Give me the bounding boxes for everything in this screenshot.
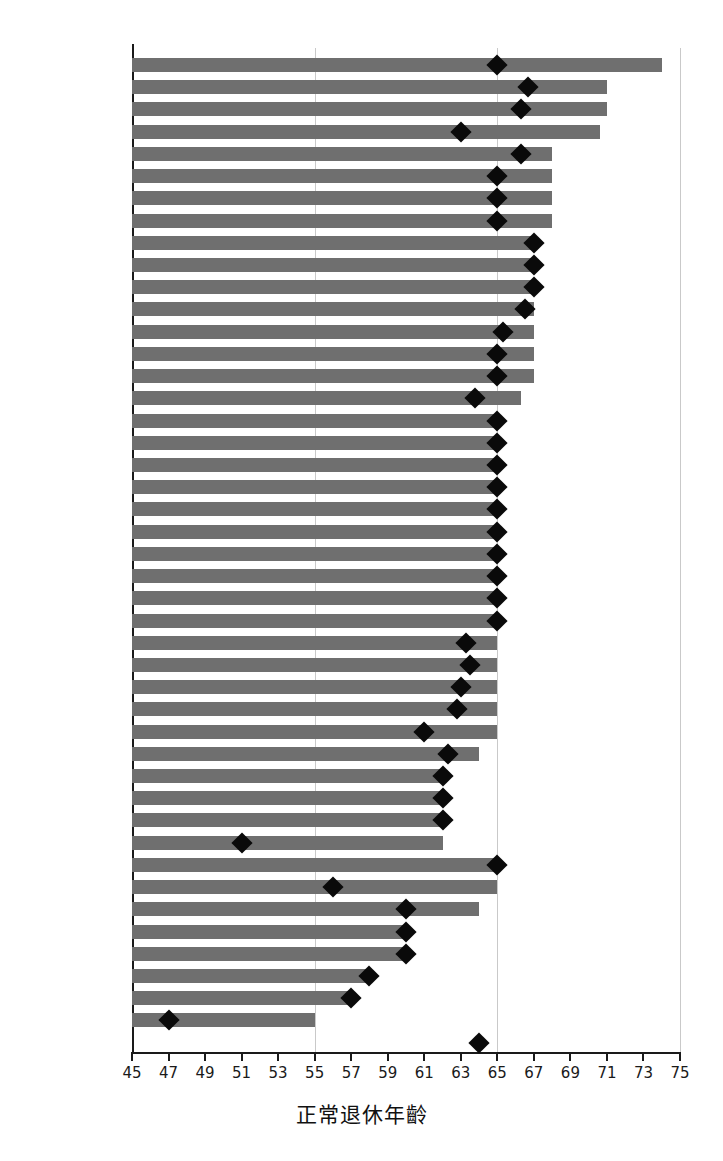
- bar: [132, 836, 443, 850]
- bar: [132, 991, 351, 1005]
- chart-row: 捷克: [0, 680, 723, 702]
- diamond-marker: [468, 1032, 489, 1053]
- bar: [132, 902, 479, 916]
- chart-row: 奧地利: [0, 414, 723, 436]
- x-tick-63: [460, 1052, 462, 1061]
- chart-row: 美國: [0, 302, 723, 324]
- chart-row: 紐西蘭: [0, 525, 723, 547]
- x-tick-53: [277, 1052, 279, 1061]
- chart-row: 丹麥: [0, 58, 723, 80]
- x-tick-55: [314, 1052, 316, 1061]
- chart-row: 瑞典: [0, 591, 723, 613]
- bar: [132, 458, 497, 472]
- chart-row: 日本: [0, 480, 723, 502]
- bar: [132, 391, 521, 405]
- x-tick-47: [168, 1052, 170, 1061]
- x-tick-label-55: 55: [295, 1064, 335, 1082]
- x-tick-label-45: 45: [112, 1064, 152, 1082]
- chart-row: 英國: [0, 169, 723, 191]
- chart-row: 瑞士: [0, 614, 723, 636]
- chart-row: 加拿大: [0, 436, 723, 458]
- bar: [132, 102, 607, 116]
- chart-row: 匈牙利: [0, 658, 723, 680]
- x-tick-label-53: 53: [258, 1064, 298, 1082]
- x-tick-label-63: 63: [441, 1064, 481, 1082]
- bar: [132, 569, 497, 583]
- x-tick-label-75: 75: [660, 1064, 700, 1082]
- bar: [132, 791, 443, 805]
- bar: [132, 591, 497, 605]
- x-tick-label-49: 49: [185, 1064, 225, 1082]
- x-tick-69: [569, 1052, 571, 1061]
- chart-row: 芬蘭: [0, 191, 723, 213]
- x-tick-61: [423, 1052, 425, 1061]
- x-tick-label-69: 69: [550, 1064, 590, 1082]
- bar: [132, 369, 534, 383]
- bar: [132, 125, 600, 139]
- bar: [132, 525, 497, 539]
- bar: [132, 414, 497, 428]
- x-tick-51: [241, 1052, 243, 1061]
- bar: [132, 947, 406, 961]
- bar: [132, 636, 497, 650]
- chart-row: 墨西哥: [0, 502, 723, 524]
- bar: [132, 680, 497, 694]
- chart-row: 澳洲: [0, 347, 723, 369]
- bar: [132, 702, 497, 716]
- chart-row: 智利: [0, 458, 723, 480]
- bar: [132, 747, 479, 761]
- x-tick-65: [496, 1052, 498, 1061]
- chart-row: 巴西: [0, 991, 723, 1013]
- x-tick-57: [350, 1052, 352, 1061]
- bar: [132, 236, 534, 250]
- chart-row: 愛沙尼亞: [0, 125, 723, 147]
- bar: [132, 325, 534, 339]
- bar: [132, 502, 497, 516]
- chart-row: 西班牙: [0, 569, 723, 591]
- chart-row: 立陶宛: [0, 636, 723, 658]
- bar: [132, 658, 497, 672]
- bar: [132, 302, 534, 316]
- chart-row: 義大利: [0, 80, 723, 102]
- chart-row: 斯洛伐克: [0, 747, 723, 769]
- chart-row: 以色列: [0, 258, 723, 280]
- bar: [132, 813, 443, 827]
- chart-row: 印度: [0, 969, 723, 991]
- x-tick-49: [204, 1052, 206, 1061]
- chart-row: 葡萄牙: [0, 214, 723, 236]
- bar: [132, 880, 497, 894]
- bar: [132, 769, 443, 783]
- x-tick-label-67: 67: [514, 1064, 554, 1082]
- chart-row: 比利時: [0, 369, 723, 391]
- chart-row: 俄羅斯: [0, 902, 723, 924]
- chart-row: 希臘: [0, 769, 723, 791]
- bar: [132, 58, 662, 72]
- chart-row: 阿根廷: [0, 858, 723, 880]
- x-tick-label-59: 59: [368, 1064, 408, 1082]
- bar: [132, 547, 497, 561]
- x-tick-label-73: 73: [623, 1064, 663, 1082]
- bar: [132, 280, 534, 294]
- x-tick-59: [387, 1052, 389, 1061]
- chart-row: 沙烏地阿拉伯: [0, 1013, 723, 1035]
- x-tick-45: [131, 1052, 133, 1061]
- x-tick-label-47: 47: [149, 1064, 189, 1082]
- x-tick-71: [606, 1052, 608, 1061]
- chart-row: 挪威: [0, 280, 723, 302]
- x-tick-label-57: 57: [331, 1064, 371, 1082]
- retirement-age-chart: 丹麥義大利荷蘭愛沙尼亞愛爾蘭英國芬蘭葡萄牙冰島以色列挪威美國德國澳洲比利時法國奧…: [0, 0, 723, 1161]
- bar: [132, 725, 497, 739]
- chart-row: 愛爾蘭: [0, 147, 723, 169]
- chart-row: 盧森堡: [0, 791, 723, 813]
- bar: [132, 258, 534, 272]
- x-tick-label-51: 51: [222, 1064, 262, 1082]
- chart-row: 土耳其: [0, 836, 723, 858]
- bar: [132, 925, 406, 939]
- chart-row: 德國: [0, 325, 723, 347]
- bar: [132, 614, 497, 628]
- chart-row: 冰島: [0, 236, 723, 258]
- x-tick-label-61: 61: [404, 1064, 444, 1082]
- chart-row: 印尼: [0, 880, 723, 902]
- chart-row: 波蘭: [0, 547, 723, 569]
- chart-row: 斯洛維尼亞: [0, 813, 723, 835]
